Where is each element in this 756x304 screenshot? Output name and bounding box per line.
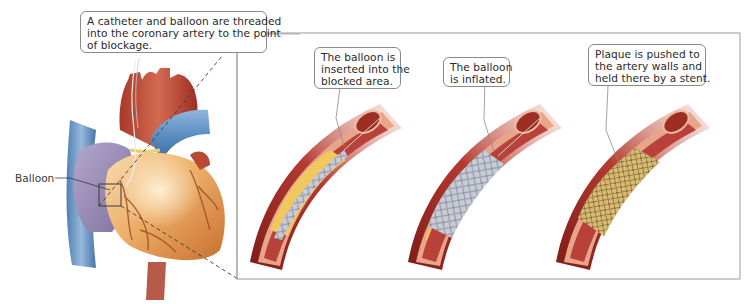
callout-line: is inflated. [450, 73, 503, 85]
callout-line: the artery walls and [595, 60, 699, 72]
callout-catheter-threaded: A catheter and balloon are threaded into… [80, 11, 267, 53]
callout-line: of blockage. [87, 39, 260, 51]
callout-line: into the coronary artery to the point [87, 27, 260, 39]
heart-illustration [67, 58, 225, 300]
callout-line: Plaque is pushed to [595, 48, 699, 60]
callout-balloon-inflated: The balloon is inflated. [443, 57, 510, 87]
balloon-label: Balloon [15, 172, 54, 184]
artery-panel-2 [408, 78, 562, 270]
callout-line: blocked area. [321, 75, 394, 87]
callout-balloon-inserted: The balloon is inserted into the blocked… [314, 47, 401, 89]
artery-panel-3 [556, 86, 710, 270]
callout-line: A catheter and balloon are threaded [87, 15, 260, 27]
artery-panel-1 [250, 88, 402, 270]
callout-line: The balloon is [321, 51, 394, 63]
callout-line: held there by a stent. [595, 72, 699, 84]
callout-line: inserted into the [321, 63, 394, 75]
callout-stent-placed: Plaque is pushed to the artery walls and… [588, 44, 706, 86]
angioplasty-figure: A catheter and balloon are threaded into… [0, 0, 756, 304]
callout-line: The balloon [450, 61, 503, 73]
